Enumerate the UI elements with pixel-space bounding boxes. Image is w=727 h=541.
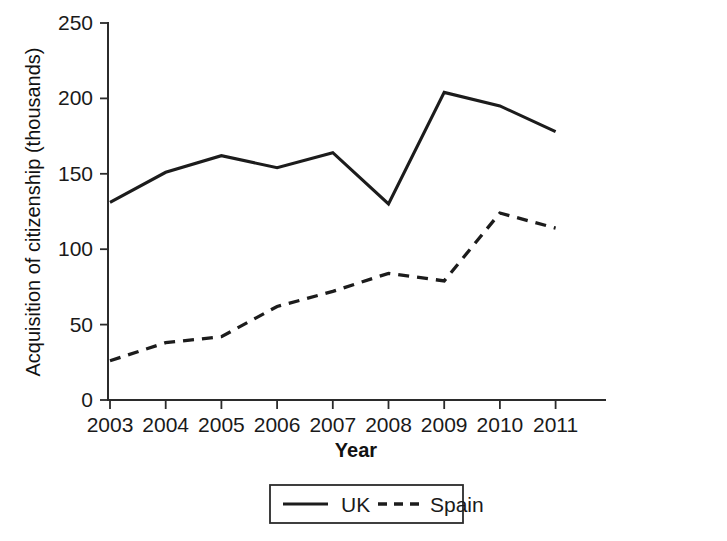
x-axis-ticks: 200320042005200620072008200920102011 xyxy=(87,400,579,436)
x-tick-label: 2008 xyxy=(365,413,412,436)
x-axis-title: Year xyxy=(335,439,377,461)
chart-figure: Acquisition of citizenship (thousands) 0… xyxy=(0,0,727,541)
legend-label-spain: Spain xyxy=(430,493,484,516)
data-series-group xyxy=(110,92,556,360)
series-line-uk xyxy=(110,92,556,204)
y-axis-title: Acquisition of citizenship (thousands) xyxy=(22,47,44,376)
axes-group xyxy=(108,23,605,400)
y-tick-label: 0 xyxy=(81,388,93,411)
y-tick-label: 50 xyxy=(70,313,93,336)
legend-label-uk: UK xyxy=(341,493,370,516)
y-tick-label: 150 xyxy=(58,162,93,185)
x-tick-label: 2003 xyxy=(87,413,134,436)
chart-legend: UK Spain xyxy=(270,485,484,523)
x-tick-label: 2010 xyxy=(477,413,524,436)
x-tick-label: 2009 xyxy=(421,413,468,436)
y-tick-label: 200 xyxy=(58,86,93,109)
x-tick-label: 2007 xyxy=(309,413,356,436)
y-axis-ticks: 050100150200250 xyxy=(58,11,108,411)
x-tick-label: 2004 xyxy=(142,413,189,436)
x-tick-label: 2006 xyxy=(254,413,301,436)
y-tick-label: 250 xyxy=(58,11,93,34)
series-line-spain xyxy=(110,213,556,361)
x-tick-label: 2005 xyxy=(198,413,245,436)
y-tick-label: 100 xyxy=(58,237,93,260)
line-chart-canvas: Acquisition of citizenship (thousands) 0… xyxy=(0,0,727,541)
x-tick-label: 2011 xyxy=(533,413,578,436)
